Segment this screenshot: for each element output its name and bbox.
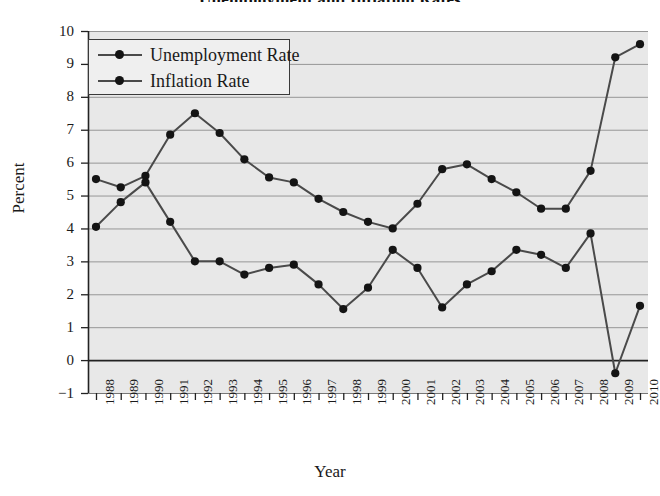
data-point — [265, 264, 273, 272]
chart-legend: Unemployment Rate Inflation Rate — [88, 39, 290, 95]
x-tick-label: 2010 — [647, 379, 660, 405]
x-tick-label: 1997 — [325, 379, 338, 405]
x-tick-label: 2005 — [523, 379, 536, 405]
legend-item-inflation-rate[interactable]: Inflation Rate — [89, 68, 291, 94]
data-point — [364, 218, 372, 226]
data-point — [290, 261, 298, 269]
data-point — [92, 223, 100, 231]
data-point — [512, 246, 520, 254]
x-tick-label: 1996 — [300, 379, 313, 405]
data-point — [389, 224, 397, 232]
data-point — [463, 280, 471, 288]
y-tick-label: 2 — [26, 287, 74, 302]
data-point — [389, 246, 397, 254]
y-tick-label: 8 — [26, 89, 74, 104]
x-tick-label: 2008 — [597, 379, 610, 405]
y-tick-label: 5 — [26, 188, 74, 203]
data-point — [191, 257, 199, 265]
data-point — [290, 178, 298, 186]
data-point — [537, 205, 545, 213]
data-point — [141, 178, 149, 186]
data-point — [240, 155, 248, 163]
data-point — [339, 305, 347, 313]
x-tick-label: 1990 — [152, 379, 165, 405]
data-point — [166, 131, 174, 139]
legend-marker-icon — [115, 50, 124, 59]
data-point — [92, 175, 100, 183]
x-tick-label: 1988 — [103, 379, 116, 405]
y-tick-label: 1 — [26, 320, 74, 335]
data-point — [216, 257, 224, 265]
y-tick-label: 7 — [26, 122, 74, 137]
legend-item-unemployment-rate[interactable]: Unemployment Rate — [89, 42, 291, 68]
legend-label-unemployment-rate: Unemployment Rate — [150, 43, 299, 67]
x-tick-label: 1999 — [375, 379, 388, 405]
data-point — [265, 173, 273, 181]
data-point — [117, 198, 125, 206]
legend-marker-icon — [115, 76, 124, 85]
data-point — [191, 109, 199, 117]
chart-figure: Unemployment and Inflation Rates Percent… — [0, 0, 660, 496]
x-tick-label: 1998 — [350, 379, 363, 405]
data-point — [636, 302, 644, 310]
data-point — [586, 167, 594, 175]
data-point — [636, 40, 644, 48]
data-point — [488, 267, 496, 275]
data-point — [463, 160, 471, 168]
data-point — [512, 188, 520, 196]
data-point — [216, 129, 224, 137]
data-point — [586, 229, 594, 237]
data-point — [438, 303, 446, 311]
y-tick-label: 3 — [26, 254, 74, 269]
x-tick-label: 2003 — [473, 379, 486, 405]
data-point — [339, 208, 347, 216]
data-point — [611, 369, 619, 377]
x-tick-label: 2007 — [572, 379, 585, 405]
x-tick-label: 2004 — [498, 379, 511, 405]
data-point — [314, 280, 322, 288]
data-point — [562, 205, 570, 213]
data-point — [537, 251, 545, 259]
x-tick-label: 2000 — [399, 379, 412, 405]
data-point — [562, 264, 570, 272]
data-point — [240, 270, 248, 278]
x-tick-label: 1993 — [226, 379, 239, 405]
data-point — [438, 165, 446, 173]
x-tick-label: 1995 — [276, 379, 289, 405]
y-tick-label: 4 — [26, 221, 74, 236]
x-tick-label: 2006 — [548, 379, 561, 405]
y-tick-label: 10 — [26, 24, 74, 39]
x-tick-label: 2002 — [449, 379, 462, 405]
y-tick-label: −1 — [26, 386, 74, 401]
data-point — [166, 218, 174, 226]
data-point — [488, 175, 496, 183]
x-tick-label: 2009 — [622, 379, 635, 405]
x-tick-label: 1989 — [127, 379, 140, 405]
data-point — [413, 200, 421, 208]
data-point — [413, 264, 421, 272]
x-tick-label: 1994 — [251, 379, 264, 405]
data-point — [314, 195, 322, 203]
x-tick-label: 1991 — [177, 379, 190, 405]
y-tick-label: 9 — [26, 56, 74, 71]
x-tick-label: 2001 — [424, 379, 437, 405]
x-tick-label: 1992 — [201, 379, 214, 405]
data-point — [364, 284, 372, 292]
legend-label-inflation-rate: Inflation Rate — [150, 69, 249, 93]
y-tick-label: 0 — [26, 353, 74, 368]
data-point — [117, 183, 125, 191]
data-point — [611, 53, 619, 61]
y-tick-label: 6 — [26, 155, 74, 170]
